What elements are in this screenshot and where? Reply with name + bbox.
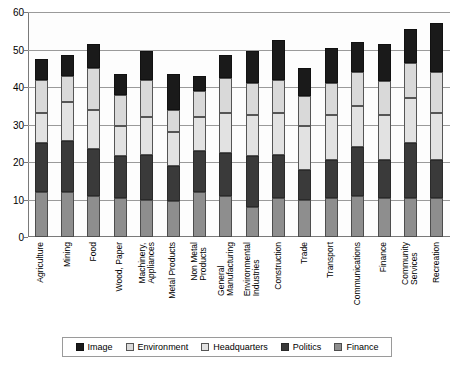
bar-segment-finance[interactable] bbox=[272, 198, 285, 237]
bar-segment-image[interactable] bbox=[404, 29, 417, 63]
bar-segment-politics[interactable] bbox=[193, 151, 206, 192]
stacked-bar[interactable] bbox=[404, 29, 417, 237]
stacked-bar[interactable] bbox=[87, 44, 100, 237]
bar-segment-politics[interactable] bbox=[114, 156, 127, 197]
bar-segment-image[interactable] bbox=[61, 55, 74, 76]
bar-segment-environment[interactable] bbox=[193, 91, 206, 117]
bar-segment-environment[interactable] bbox=[140, 80, 153, 118]
bar-segment-image[interactable] bbox=[193, 76, 206, 91]
bar-segment-image[interactable] bbox=[298, 68, 311, 96]
legend-item-headquarters[interactable]: Headquarters bbox=[201, 342, 268, 352]
bar-segment-headquarters[interactable] bbox=[87, 110, 100, 149]
bar-segment-headquarters[interactable] bbox=[140, 117, 153, 155]
bar-segment-environment[interactable] bbox=[404, 63, 417, 99]
bar-segment-headquarters[interactable] bbox=[61, 102, 74, 141]
bar-segment-image[interactable] bbox=[35, 59, 48, 80]
bar-segment-image[interactable] bbox=[430, 23, 443, 72]
bar-segment-politics[interactable] bbox=[272, 155, 285, 198]
bar-segment-finance[interactable] bbox=[378, 198, 391, 237]
bar-segment-finance[interactable] bbox=[219, 196, 232, 237]
bar-segment-image[interactable] bbox=[167, 74, 180, 110]
bar-segment-finance[interactable] bbox=[193, 192, 206, 237]
bar-segment-image[interactable] bbox=[246, 51, 259, 83]
stacked-bar[interactable] bbox=[430, 23, 443, 237]
bar-segment-headquarters[interactable] bbox=[246, 115, 259, 156]
stacked-bar[interactable] bbox=[140, 51, 153, 237]
bar-segment-finance[interactable] bbox=[140, 200, 153, 238]
bar-segment-finance[interactable] bbox=[61, 192, 74, 237]
bar-segment-headquarters[interactable] bbox=[430, 113, 443, 160]
bar-segment-politics[interactable] bbox=[404, 143, 417, 197]
bar-segment-environment[interactable] bbox=[61, 76, 74, 102]
bar-segment-environment[interactable] bbox=[87, 68, 100, 109]
bar-segment-finance[interactable] bbox=[404, 198, 417, 237]
bar-segment-finance[interactable] bbox=[430, 198, 443, 237]
stacked-bar[interactable] bbox=[35, 59, 48, 237]
bar-segment-finance[interactable] bbox=[298, 200, 311, 238]
bar-segment-headquarters[interactable] bbox=[404, 98, 417, 143]
stacked-bar[interactable] bbox=[246, 51, 259, 237]
bar-segment-politics[interactable] bbox=[325, 160, 338, 198]
bar-segment-image[interactable] bbox=[325, 48, 338, 84]
bar-segment-headquarters[interactable] bbox=[193, 117, 206, 151]
bar-segment-finance[interactable] bbox=[167, 201, 180, 237]
bar-segment-environment[interactable] bbox=[325, 83, 338, 115]
bar-segment-headquarters[interactable] bbox=[219, 113, 232, 152]
bar-segment-environment[interactable] bbox=[35, 80, 48, 114]
stacked-bar[interactable] bbox=[298, 68, 311, 237]
stacked-bar[interactable] bbox=[272, 40, 285, 237]
bar-segment-finance[interactable] bbox=[87, 196, 100, 237]
bar-segment-politics[interactable] bbox=[219, 153, 232, 196]
bar-segment-image[interactable] bbox=[219, 55, 232, 78]
stacked-bar[interactable] bbox=[351, 42, 364, 237]
legend-item-finance[interactable]: Finance bbox=[334, 342, 378, 352]
stacked-bar[interactable] bbox=[219, 55, 232, 237]
bar-segment-environment[interactable] bbox=[246, 83, 259, 115]
stacked-bar[interactable] bbox=[325, 48, 338, 237]
bar-segment-headquarters[interactable] bbox=[325, 115, 338, 160]
bar-segment-politics[interactable] bbox=[167, 166, 180, 202]
bar-segment-image[interactable] bbox=[140, 51, 153, 79]
bar-segment-headquarters[interactable] bbox=[35, 113, 48, 143]
bar-segment-politics[interactable] bbox=[298, 170, 311, 200]
bar-segment-finance[interactable] bbox=[351, 196, 364, 237]
bar-segment-politics[interactable] bbox=[246, 156, 259, 207]
bar-segment-finance[interactable] bbox=[325, 198, 338, 237]
bar-segment-environment[interactable] bbox=[114, 95, 127, 127]
bar-segment-headquarters[interactable] bbox=[298, 126, 311, 169]
bar-segment-politics[interactable] bbox=[430, 160, 443, 198]
bar-segment-politics[interactable] bbox=[61, 141, 74, 192]
bar-segment-headquarters[interactable] bbox=[272, 113, 285, 154]
bar-segment-environment[interactable] bbox=[430, 72, 443, 113]
bar-segment-image[interactable] bbox=[114, 74, 127, 95]
legend-item-image[interactable]: Image bbox=[76, 342, 113, 352]
bar-segment-politics[interactable] bbox=[140, 155, 153, 200]
bar-segment-image[interactable] bbox=[378, 44, 391, 82]
legend-item-environment[interactable]: Environment bbox=[126, 342, 189, 352]
bar-segment-politics[interactable] bbox=[35, 143, 48, 192]
bar-segment-image[interactable] bbox=[272, 40, 285, 79]
bar-segment-environment[interactable] bbox=[167, 110, 180, 133]
bar-segment-image[interactable] bbox=[87, 44, 100, 68]
stacked-bar[interactable] bbox=[378, 44, 391, 237]
stacked-bar[interactable] bbox=[114, 74, 127, 237]
bar-segment-politics[interactable] bbox=[87, 149, 100, 196]
bar-segment-environment[interactable] bbox=[351, 72, 364, 106]
bar-segment-environment[interactable] bbox=[298, 96, 311, 126]
legend-item-politics[interactable]: Politics bbox=[281, 342, 322, 352]
bar-segment-finance[interactable] bbox=[35, 192, 48, 237]
bar-segment-headquarters[interactable] bbox=[114, 126, 127, 156]
bar-segment-finance[interactable] bbox=[114, 198, 127, 237]
bar-segment-politics[interactable] bbox=[351, 147, 364, 196]
bar-segment-headquarters[interactable] bbox=[167, 132, 180, 166]
stacked-bar[interactable] bbox=[61, 55, 74, 237]
bar-segment-environment[interactable] bbox=[378, 81, 391, 115]
bar-segment-politics[interactable] bbox=[378, 160, 391, 198]
bar-segment-environment[interactable] bbox=[272, 80, 285, 114]
bar-segment-environment[interactable] bbox=[219, 78, 232, 114]
bar-segment-image[interactable] bbox=[351, 42, 364, 72]
stacked-bar[interactable] bbox=[167, 74, 180, 237]
stacked-bar[interactable] bbox=[193, 76, 206, 237]
bar-segment-headquarters[interactable] bbox=[351, 106, 364, 147]
bar-segment-headquarters[interactable] bbox=[378, 115, 391, 160]
